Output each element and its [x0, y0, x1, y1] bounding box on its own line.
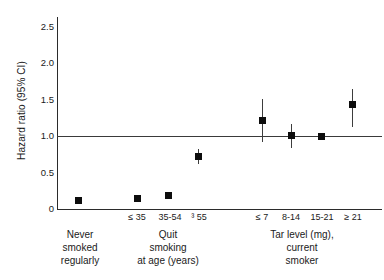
tick-tar-ge-21: ≥ 21 [337, 212, 369, 223]
group-label-tar-level: Tar level (mg),currentsmoker [252, 228, 352, 267]
tick-tar-8-14: 8-14 [275, 212, 307, 223]
data-point-never-smoked-regularly [75, 197, 82, 204]
error-bar-tar-21-or-more [352, 89, 353, 127]
y-tick-label: 0.5 [32, 168, 54, 178]
group-label-line: regularly [47, 254, 113, 267]
data-point-tar-8-14 [288, 132, 295, 139]
group-label-line: Tar level (mg), [252, 228, 352, 241]
y-tick-2-5: 2.5 [26, 22, 54, 32]
y-tick-label: 1.0 [32, 131, 54, 141]
tick-tar-15-21: 15-21 [305, 212, 339, 223]
group-label-line: Never [47, 228, 113, 241]
y-tick-label: 2.5 [32, 22, 54, 32]
y-tick-0-5: 0.5 [26, 168, 54, 178]
tick-tar-le-7: ≤ 7 [247, 212, 277, 223]
group-label-line: smoking [118, 241, 218, 254]
data-point-tar-7-or-less [259, 117, 266, 124]
group-label-line: current [252, 241, 352, 254]
y-tick-0: 0 [26, 204, 54, 214]
y-tick-1-0: 1.0 [26, 131, 54, 141]
group-label-line: smoker [252, 254, 352, 267]
data-point-quit-at-35-or-less [134, 195, 141, 202]
y-tick-label: 1.5 [32, 95, 54, 105]
y-tick-2-0: 2.0 [26, 58, 54, 68]
forest-plot-figure: Hazard ratio (95% CI) 2.52.01.51.00.50 ≤… [0, 0, 384, 280]
group-label-line: smoked [47, 241, 113, 254]
data-point-tar-15-21 [318, 133, 325, 140]
data-point-quit-at-55-or-more [195, 153, 202, 160]
y-tick-1-5: 1.5 [26, 95, 54, 105]
y-tick-label: 2.0 [32, 58, 54, 68]
x-axis-line [57, 209, 382, 210]
data-point-tar-21-or-more [349, 101, 356, 108]
group-label-never-smoked: Neversmokedregularly [47, 228, 113, 267]
tick-quit-le-35: ≤ 35 [120, 212, 154, 223]
group-label-line: at age (years) [118, 254, 218, 267]
group-label-line: Quit [118, 228, 218, 241]
y-axis-title: Hazard ratio (95% CI) [16, 41, 27, 181]
data-point-quit-at-35-54 [165, 192, 172, 199]
tick-quit-ge-55: ³ 55 [183, 212, 215, 223]
reference-line-hr-1 [57, 136, 382, 137]
group-label-quit-smoking: Quitsmokingat age (years) [118, 228, 218, 267]
y-tick-label: 0 [32, 204, 54, 214]
y-axis-line [57, 17, 58, 210]
